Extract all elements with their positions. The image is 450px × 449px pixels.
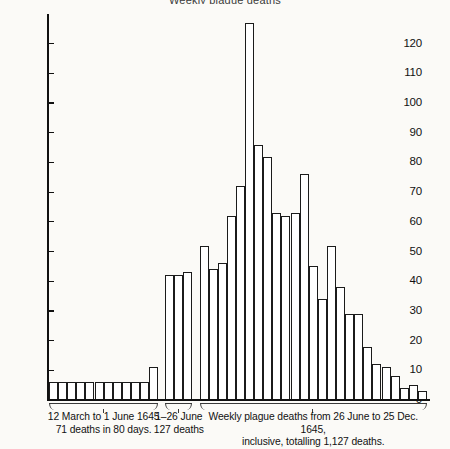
group-brace <box>165 403 192 410</box>
chart-title: Weekly plague deaths <box>0 0 450 4</box>
bar <box>174 275 183 400</box>
bar <box>272 213 281 400</box>
bar <box>382 367 391 400</box>
bar <box>131 382 140 400</box>
bar <box>363 347 372 400</box>
bar <box>104 382 113 400</box>
plague-deaths-chart: Weekly plague deaths 0102030405060708090… <box>0 0 450 449</box>
bar <box>300 174 309 400</box>
bar <box>200 246 209 400</box>
bar <box>327 246 336 400</box>
bar <box>85 382 94 400</box>
group-caption-line1: Weekly plague deaths from 26 June to 25 … <box>209 411 418 435</box>
group-caption-line1: 12 March to 1 June 1645 <box>48 411 160 422</box>
bar <box>263 157 272 400</box>
bar <box>113 382 122 400</box>
bar <box>281 216 290 400</box>
group-brace <box>49 403 158 410</box>
bar <box>291 213 300 400</box>
bar <box>236 186 245 400</box>
group-caption: Weekly plague deaths from 26 June to 25 … <box>197 411 429 449</box>
bar <box>165 275 174 400</box>
bar <box>245 23 254 400</box>
bar <box>345 314 354 400</box>
bar <box>336 287 345 400</box>
bar <box>183 272 192 400</box>
bar <box>318 299 327 400</box>
bar-series <box>49 14 430 400</box>
bar <box>95 382 104 400</box>
bar <box>67 382 76 400</box>
bar <box>209 269 218 400</box>
group-caption-line1: 1–26 June <box>155 411 202 422</box>
bar <box>254 145 263 400</box>
group-brace <box>200 403 428 410</box>
bar <box>309 266 318 400</box>
bar <box>76 382 85 400</box>
bar <box>354 314 363 400</box>
plot-area: 0102030405060708090100110120 <box>47 14 430 400</box>
bar <box>409 385 418 400</box>
group-caption-line2: inclusive, totalling 1,127 deaths. <box>197 436 429 449</box>
bar <box>49 382 58 400</box>
bar <box>372 364 381 400</box>
bar <box>122 382 131 400</box>
bar <box>58 382 67 400</box>
bar <box>149 367 158 400</box>
bar <box>391 376 400 400</box>
bar <box>227 216 236 400</box>
group-captions: 12 March to 1 June 164571 deaths in 80 d… <box>0 400 450 449</box>
bar <box>140 382 149 400</box>
bar <box>218 263 227 400</box>
